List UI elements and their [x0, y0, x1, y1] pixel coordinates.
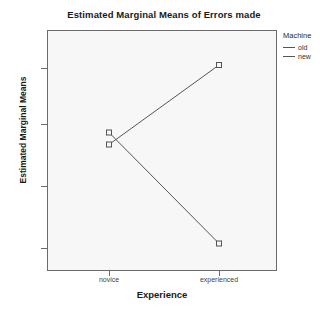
legend-label-new: new [298, 53, 311, 60]
chart-title: Estimated Marginal Means of Errors made [0, 9, 328, 20]
y-tick-mark [41, 68, 47, 69]
y-tick-mark [41, 124, 47, 125]
x-tick-label: novice [69, 276, 149, 283]
plot-area [47, 30, 277, 271]
legend-line-swatch-old [283, 47, 295, 48]
estimated-marginal-means-chart: Estimated Marginal Means of Errors made … [0, 0, 328, 309]
legend-label-old: old [298, 44, 307, 51]
y-tick-mark [41, 186, 47, 187]
legend-item-new[interactable]: new [283, 53, 327, 60]
x-axis-title: Experience [47, 289, 277, 300]
legend: Machine old new [283, 31, 327, 62]
y-tick-mark [41, 248, 47, 249]
legend-item-old[interactable]: old [283, 44, 327, 51]
legend-title: Machine [283, 31, 327, 40]
x-tick-label: experienced [179, 276, 259, 283]
y-axis-title: Estimated Marginal Means [18, 15, 28, 245]
legend-line-swatch-new [283, 56, 295, 57]
